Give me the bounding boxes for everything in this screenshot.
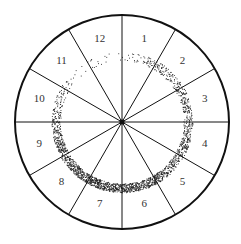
sector-divider bbox=[122, 122, 215, 176]
sector-divider bbox=[69, 122, 123, 215]
sector-label-2: 2 bbox=[180, 54, 186, 66]
sector-divider bbox=[29, 122, 122, 176]
sector-label-10: 10 bbox=[34, 92, 46, 104]
sector-label-6: 6 bbox=[141, 197, 147, 209]
sector-label-8: 8 bbox=[59, 175, 65, 187]
sector-label-4: 4 bbox=[202, 137, 208, 149]
sector-divider bbox=[122, 29, 176, 122]
sector-divider bbox=[122, 69, 215, 123]
sector-label-11: 11 bbox=[56, 54, 67, 66]
sector-label-9: 9 bbox=[37, 137, 43, 149]
sector-label-5: 5 bbox=[180, 175, 186, 187]
sector-label-1: 1 bbox=[141, 32, 147, 44]
center-point bbox=[120, 120, 125, 125]
clock-sector-diagram: 123456789101112 bbox=[0, 0, 241, 244]
sector-label-7: 7 bbox=[97, 197, 103, 209]
sector-label-12: 12 bbox=[94, 32, 105, 44]
sector-label-3: 3 bbox=[202, 92, 208, 104]
